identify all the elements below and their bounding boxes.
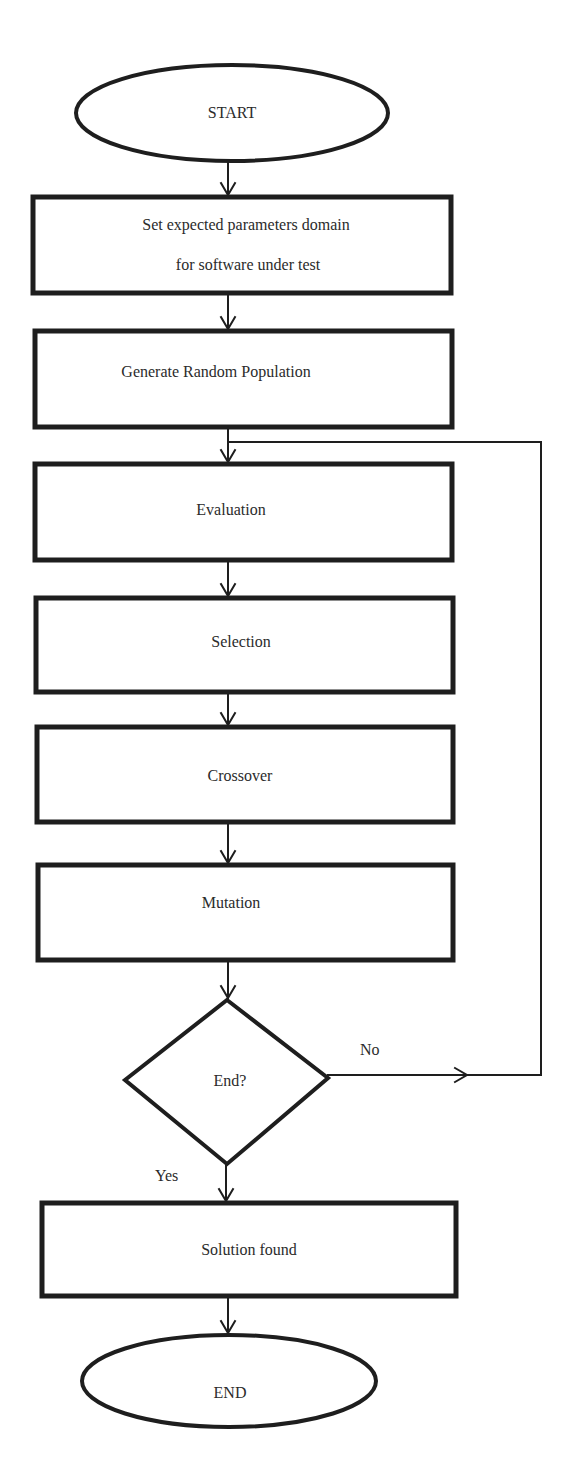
arrow-set-domain-to-generate	[221, 295, 235, 329]
yes-branch-label: Yes	[155, 1166, 178, 1186]
arrow-decision-to-solution	[219, 1166, 233, 1201]
start-label: START	[208, 103, 256, 123]
arrow-generate-to-evaluation	[221, 429, 235, 462]
arrow-evaluation-to-selection	[221, 562, 235, 596]
evaluation-label: Evaluation	[196, 500, 265, 520]
arrow-mutation-to-decision	[221, 962, 235, 998]
solution-label: Solution found	[201, 1240, 297, 1260]
set-domain-process	[33, 197, 451, 293]
arrow-selection-to-crossover	[221, 694, 235, 725]
end-label: END	[214, 1383, 247, 1403]
decision-label: End?	[214, 1071, 247, 1091]
arrow-solution-to-end	[221, 1298, 235, 1333]
no-branch-label: No	[360, 1040, 380, 1060]
generate-label: Generate Random Population	[121, 362, 310, 382]
selection-label: Selection	[211, 632, 271, 652]
end-terminator	[82, 1335, 376, 1427]
set-domain-label-line2: for software under test	[176, 255, 320, 275]
arrow-start-to-set-domain	[221, 161, 235, 195]
arrow-crossover-to-mutation	[221, 824, 235, 863]
mutation-label: Mutation	[202, 893, 261, 913]
crossover-label: Crossover	[208, 766, 273, 786]
set-domain-label-line1: Set expected parameters domain	[142, 215, 349, 235]
